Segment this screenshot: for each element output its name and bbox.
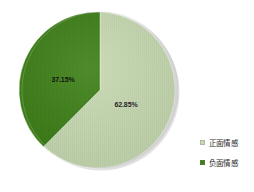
- legend-swatch-negative-sentiment: [200, 160, 205, 165]
- pie-shading: [22, 12, 178, 168]
- pie-slice-label-negative-sentiment: 37.15%: [51, 76, 74, 83]
- legend-swatch-positive-sentiment: [200, 140, 205, 145]
- legend-label-positive-sentiment: 正面情感: [209, 137, 238, 148]
- pie-chart: 62.85% 37.15% 正面情感 负面情感: [0, 0, 254, 192]
- legend-item-negative-sentiment[interactable]: 负面情感: [200, 152, 254, 172]
- pie-slice-label-positive-sentiment: 62.85%: [114, 101, 137, 108]
- legend: 正面情感 负面情感: [200, 132, 254, 172]
- legend-item-positive-sentiment[interactable]: 正面情感: [200, 132, 254, 152]
- legend-label-negative-sentiment: 负面情感: [209, 157, 238, 168]
